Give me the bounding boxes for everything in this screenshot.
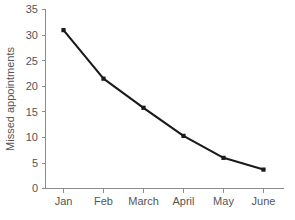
y-tick-label: 20 xyxy=(26,80,38,92)
y-tick-label: 5 xyxy=(32,157,38,169)
x-tick-label: Jan xyxy=(55,195,73,207)
data-point-marker xyxy=(101,77,105,81)
chart-canvas: 0 5 10 15 20 25 30 35 Jan Feb March Apri… xyxy=(0,0,295,220)
y-tick-label: 35 xyxy=(26,3,38,15)
data-point-marker xyxy=(261,168,265,172)
y-tick-label: 15 xyxy=(26,106,38,118)
data-point-marker xyxy=(61,28,65,32)
x-tick-label: March xyxy=(128,195,159,207)
y-tick-label: 25 xyxy=(26,55,38,67)
line-chart-figure: 0 5 10 15 20 25 30 35 Jan Feb March Apri… xyxy=(0,0,295,220)
y-tick-label: 10 xyxy=(26,131,38,143)
data-point-marker xyxy=(141,106,145,110)
data-point-marker xyxy=(221,156,225,160)
data-point-marker xyxy=(181,134,185,138)
y-tick-label: 30 xyxy=(26,29,38,41)
x-tick-label: April xyxy=(172,195,194,207)
y-tick-label: 0 xyxy=(32,182,38,194)
x-tick-label: Feb xyxy=(94,195,113,207)
x-tick-label: June xyxy=(252,195,276,207)
y-axis-title: Missed appointments xyxy=(4,47,16,151)
x-tick-label: May xyxy=(213,195,234,207)
